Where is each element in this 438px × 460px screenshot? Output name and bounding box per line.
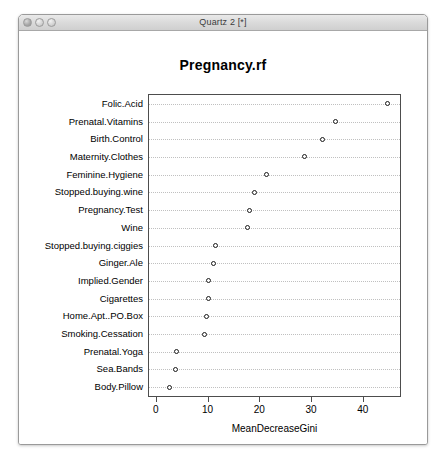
close-button-icon[interactable] [23, 18, 32, 27]
x-axis-tick [311, 397, 312, 402]
y-axis-tick-label: Prenatal.Yoga [84, 345, 143, 356]
gridline [149, 352, 400, 353]
chart-title: Pregnancy.rf [19, 57, 427, 73]
y-axis-tick-label: Body.Pillow [95, 381, 143, 392]
gridline [149, 139, 400, 140]
x-axis-tick [208, 397, 209, 402]
x-axis-tick-label: 0 [153, 404, 159, 415]
data-point [320, 137, 325, 142]
data-point [252, 190, 257, 195]
y-axis-tick-label: Wine [121, 221, 143, 232]
data-point [206, 296, 211, 301]
data-point [204, 314, 209, 319]
y-axis-tick-label: Prenatal.Vitamins [69, 115, 143, 126]
gridline [149, 175, 400, 176]
gridline [149, 369, 400, 370]
y-axis-tick-label: Maternity.Clothes [70, 150, 143, 161]
y-axis-tick-label: Ginger.Ale [99, 257, 143, 268]
x-axis-tick [259, 397, 260, 402]
x-axis: MeanDecreaseGini 010203040 [148, 397, 401, 441]
data-point [173, 367, 178, 372]
y-axis-tick-label: Pregnancy.Test [78, 204, 143, 215]
gridline [149, 281, 400, 282]
y-axis-tick-label: Feminine.Hygiene [66, 168, 143, 179]
gridline [149, 246, 400, 247]
y-axis-tick-label: Implied.Gender [78, 274, 143, 285]
zoom-button-icon[interactable] [47, 18, 56, 27]
y-axis-tick-label: Smoking.Cessation [61, 328, 143, 339]
gridline [149, 263, 400, 264]
gridline [149, 387, 400, 388]
data-point [202, 332, 207, 337]
gridline [149, 210, 400, 211]
gridline [149, 299, 400, 300]
gridline [149, 122, 400, 123]
x-axis-title: MeanDecreaseGini [148, 423, 401, 434]
gridline [149, 104, 400, 105]
data-point [333, 119, 338, 124]
y-axis-tick-label: Birth.Control [90, 133, 143, 144]
window-controls [23, 15, 56, 30]
y-axis-labels: Folic.AcidPrenatal.VitaminsBirth.Control… [29, 94, 143, 397]
data-point [302, 154, 307, 159]
data-point [211, 261, 216, 266]
x-axis-tick-label: 30 [305, 404, 316, 415]
gridline [149, 192, 400, 193]
x-axis-tick-label: 40 [357, 404, 368, 415]
window-content: Pregnancy.rf Folic.AcidPrenatal.Vitamins… [19, 31, 427, 444]
data-point [206, 278, 211, 283]
application-window: Quartz 2 [*] Pregnancy.rf Folic.AcidPren… [18, 14, 428, 445]
data-point [385, 101, 390, 106]
y-axis-tick-label: Stopped.buying.ciggies [45, 239, 143, 250]
data-point [167, 385, 172, 390]
gridline [149, 228, 400, 229]
x-axis-tick [156, 397, 157, 402]
x-axis-tick-label: 10 [202, 404, 213, 415]
x-axis-tick [363, 397, 364, 402]
data-point [264, 172, 269, 177]
window-title: Quartz 2 [*] [19, 15, 427, 30]
data-point [213, 243, 218, 248]
x-axis-tick-label: 20 [254, 404, 265, 415]
y-axis-tick-label: Folic.Acid [102, 97, 143, 108]
y-axis-tick-label: Home.Apt..PO.Box [63, 310, 143, 321]
variable-importance-plot: Pregnancy.rf Folic.AcidPrenatal.Vitamins… [19, 31, 427, 445]
data-point [247, 208, 252, 213]
y-axis-tick-label: Stopped.buying.wine [55, 186, 143, 197]
data-point [245, 225, 250, 230]
y-axis-tick-label: Cigarettes [100, 292, 143, 303]
minimize-button-icon[interactable] [35, 18, 44, 27]
gridline [149, 316, 400, 317]
gridline [149, 157, 400, 158]
plot-panel [148, 94, 401, 397]
y-axis-tick-label: Sea.Bands [97, 363, 143, 374]
data-point [174, 349, 179, 354]
gridline [149, 334, 400, 335]
window-title-bar[interactable]: Quartz 2 [*] [19, 15, 427, 31]
